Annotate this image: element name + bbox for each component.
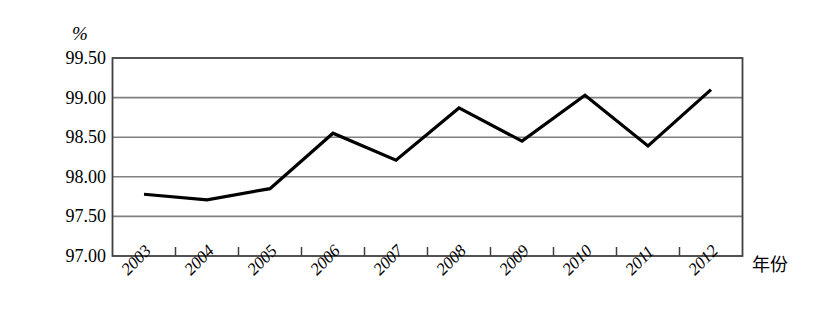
y-tick-label: 98.00 — [48, 168, 106, 186]
line-chart: % 99.5099.0098.5098.0097.5097.00 2003200… — [0, 0, 818, 336]
y-tick-label: 98.50 — [48, 128, 106, 146]
x-axis-title: 年份 — [752, 256, 788, 274]
y-tick-label: 97.00 — [48, 247, 106, 265]
y-axis-tick-labels: 99.5099.0098.5098.0097.5097.00 — [0, 0, 106, 336]
y-tick-label: 97.50 — [48, 207, 106, 225]
series-polyline — [144, 90, 711, 200]
plot-frame — [113, 58, 743, 256]
y-tick-label: 99.00 — [48, 89, 106, 107]
y-tick-label: 99.50 — [48, 49, 106, 67]
frame-rect — [113, 58, 743, 256]
data-series-line — [144, 90, 711, 200]
x-axis-tick-marks — [176, 247, 680, 256]
plot-area — [0, 0, 818, 336]
